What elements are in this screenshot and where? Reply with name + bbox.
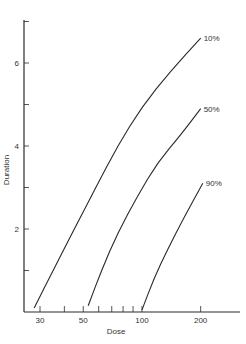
curve-label: 10% — [204, 34, 220, 43]
x-tick-label: 200 — [194, 316, 208, 325]
x-tick-label: 100 — [135, 316, 149, 325]
x-tick-label: 50 — [79, 316, 88, 325]
curve-label: 90% — [206, 179, 222, 188]
x-ticks: 3050100200 — [36, 306, 208, 325]
y-tick-label: 6 — [15, 59, 20, 68]
x-axis-label: Dose — [107, 327, 126, 336]
curve-90pct — [142, 183, 203, 310]
curve-50pct — [88, 109, 201, 306]
y-tick-label: 4 — [15, 142, 20, 151]
x-tick-label: 30 — [36, 316, 45, 325]
curve-10pct — [34, 38, 201, 308]
y-ticks: 246 — [15, 22, 29, 271]
curve-label: 50% — [204, 105, 220, 114]
dose-duration-chart: 246 3050100200 10%50%90% Dose Duration — [0, 0, 246, 344]
curves: 10%50%90% — [34, 34, 222, 310]
y-tick-label: 2 — [15, 225, 20, 234]
y-axis-label: Duration — [2, 155, 11, 185]
